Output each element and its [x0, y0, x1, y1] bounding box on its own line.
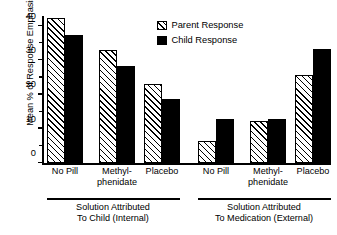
y-tick-label-10: 10 — [26, 115, 36, 124]
y-minor-tick-25 — [39, 76, 42, 77]
bar-left-nopill-child — [65, 35, 83, 163]
group-caption-left-line2: To Child (Internal) — [76, 213, 150, 224]
bar-left-placebo-child — [162, 99, 180, 163]
legend-label-child-response: Child Response — [172, 36, 238, 45]
y-tick-label-40: 40 — [26, 12, 36, 21]
y-tick-30 — [38, 59, 43, 60]
legend-item-parent-response: Parent Response — [157, 19, 243, 32]
y-tick-0 — [38, 162, 43, 163]
y-tick-label-20: 20 — [26, 81, 36, 90]
bar-chart: Mean % of Response Emphasis 40 30 20 10 … — [0, 0, 337, 235]
bar-right-placebo-child — [313, 49, 331, 163]
y-minor-tick-35 — [39, 42, 42, 43]
xtick-left-methyl-line1: Methyl- — [97, 166, 137, 177]
xtick-left-nopill-text: No Pill — [52, 166, 78, 177]
bar-right-methyl-parent — [250, 121, 268, 163]
y-minor-tick-15 — [39, 111, 42, 112]
y-minor-tick-5 — [39, 145, 42, 146]
bar-left-methyl-parent — [99, 50, 117, 163]
xtick-right-methyl-line1: Methyl- — [248, 166, 288, 177]
group-caption-right-line2: To Medication (External) — [215, 213, 313, 224]
legend-item-child-response: Child Response — [157, 34, 243, 47]
group-rule-right — [198, 198, 331, 200]
y-tick-label-30: 30 — [26, 46, 36, 55]
xtick-left-methyl: Methyl- phenidate — [97, 166, 137, 187]
xtick-right-placebo-text: Placebo — [297, 166, 330, 177]
xtick-left-placebo-text: Placebo — [146, 166, 179, 177]
bar-left-nopill-parent — [47, 18, 65, 163]
xtick-left-methyl-line2: phenidate — [97, 177, 137, 188]
group-caption-right: Solution Attributed To Medication (Exter… — [215, 202, 313, 225]
bar-left-methyl-child — [117, 66, 135, 164]
legend: Parent Response Child Response — [157, 19, 243, 49]
y-tick-20 — [38, 93, 43, 94]
xtick-right-nopill: No Pill — [203, 166, 229, 177]
bar-right-placebo-parent — [295, 75, 313, 163]
legend-swatch-solid-icon — [157, 36, 167, 46]
group-caption-left: Solution Attributed To Child (Internal) — [76, 202, 150, 225]
group-rule-left — [47, 198, 180, 200]
legend-swatch-hatched-icon — [157, 21, 167, 31]
bar-right-methyl-child — [268, 119, 286, 163]
xtick-left-placebo: Placebo — [146, 166, 179, 177]
bar-right-nopill-parent — [198, 141, 216, 163]
xtick-right-methyl: Methyl- phenidate — [248, 166, 288, 187]
xtick-left-nopill: No Pill — [52, 166, 78, 177]
legend-label-parent-response: Parent Response — [172, 21, 244, 30]
xtick-right-methyl-line2: phenidate — [248, 177, 288, 188]
y-axis-line — [42, 16, 44, 163]
xtick-right-nopill-text: No Pill — [203, 166, 229, 177]
y-tick-10 — [38, 127, 43, 128]
y-tick-label-0: 0 — [31, 149, 36, 158]
xtick-right-placebo: Placebo — [297, 166, 330, 177]
x-axis-line — [42, 163, 331, 165]
group-caption-left-line1: Solution Attributed — [76, 202, 150, 213]
bar-right-nopill-child — [216, 119, 234, 164]
bar-left-placebo-parent — [144, 84, 162, 163]
y-tick-40 — [38, 25, 43, 26]
group-caption-right-line1: Solution Attributed — [215, 202, 313, 213]
